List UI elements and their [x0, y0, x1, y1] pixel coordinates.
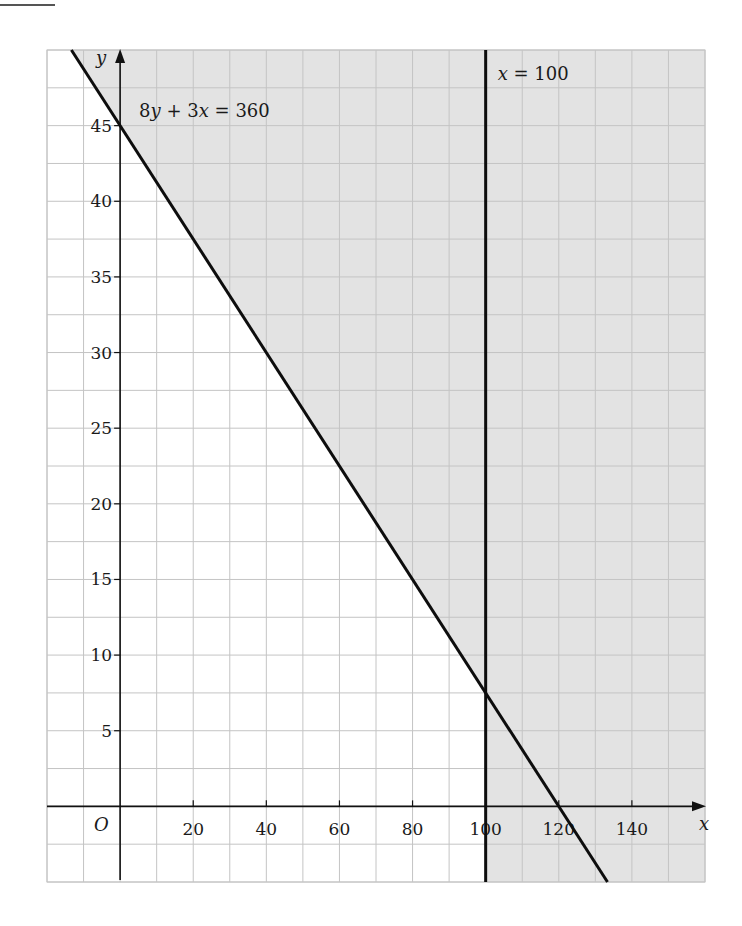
x-tick-label: 80 — [402, 819, 424, 839]
y-tick-label: 45 — [90, 116, 112, 136]
x-axis-label: x — [699, 813, 709, 834]
line-label-x-100: x = 100 — [498, 63, 569, 84]
y-tick-label: 30 — [90, 343, 112, 363]
y-tick-label: 20 — [90, 494, 112, 514]
x-tick-label: 60 — [329, 819, 351, 839]
x-tick-label: 20 — [182, 819, 204, 839]
x-tick-label: 40 — [256, 819, 278, 839]
y-tick-label: 15 — [90, 569, 112, 589]
origin-label: O — [94, 814, 109, 835]
label-part: = 360 — [209, 100, 270, 121]
label-part: 8 — [139, 100, 150, 121]
label-part: + 3 — [161, 100, 199, 121]
y-tick-label: 10 — [90, 645, 112, 665]
y-tick-label: 5 — [101, 721, 112, 741]
y-axis-label: y — [95, 47, 107, 68]
inequality-graph: 2040608010012014051015202530354045 O x y… — [0, 0, 742, 926]
y-tick-label: 35 — [90, 267, 112, 287]
line-label-8y-3x-360: 8y + 3x = 360 — [139, 100, 270, 121]
y-tick-label: 25 — [90, 418, 112, 438]
label-part: x — [498, 63, 508, 84]
y-tick-label: 40 — [90, 191, 112, 211]
label-part: = 100 — [508, 63, 569, 84]
x-tick-label: 140 — [616, 819, 648, 839]
label-part: x — [199, 100, 209, 121]
